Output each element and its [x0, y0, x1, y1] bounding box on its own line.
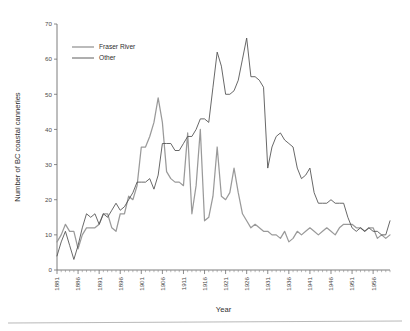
- x-tick-label: 1941: [306, 276, 313, 290]
- series-line-fraser-river: [57, 98, 390, 249]
- y-tick-label: 20: [45, 196, 52, 203]
- x-axis-title: Year: [216, 305, 232, 314]
- x-tick-label: 1911: [180, 276, 187, 290]
- y-tick-label: 60: [45, 55, 52, 62]
- y-tick-label: 70: [45, 20, 52, 27]
- y-tick-label: 40: [45, 126, 52, 133]
- y-axis-title: Number of BC coastal canneries: [13, 92, 22, 202]
- y-tick-label: 0: [49, 266, 53, 273]
- x-tick-label: 1931: [264, 276, 271, 290]
- y-tick-label: 50: [45, 91, 52, 98]
- y-tick-label: 10: [45, 231, 52, 238]
- x-tick-label: 1901: [138, 276, 145, 290]
- x-tick-label: 1921: [222, 276, 229, 290]
- x-tick-label: 1896: [117, 276, 124, 290]
- x-tick-label: 1951: [348, 276, 355, 290]
- x-tick-label: 1916: [201, 276, 208, 290]
- x-tick-label: 1881: [53, 276, 60, 290]
- x-tick-label: 1906: [159, 276, 166, 290]
- x-tick-label: 1926: [243, 276, 250, 290]
- footer-divider: [8, 321, 402, 323]
- x-tick-label: 1886: [74, 276, 81, 290]
- x-tick-label: 1946: [327, 276, 334, 290]
- x-tick-label: 1891: [96, 276, 103, 290]
- legend-label-2: Other: [99, 54, 116, 61]
- series-line-other: [57, 38, 390, 259]
- cannery-count-line-chart: 0102030405060701881188618911896190119061…: [0, 0, 410, 331]
- x-tick-label: 1956: [370, 276, 377, 290]
- legend-label-1: Fraser River: [99, 43, 136, 50]
- x-tick-label: 1936: [285, 276, 292, 290]
- y-tick-label: 30: [45, 161, 52, 168]
